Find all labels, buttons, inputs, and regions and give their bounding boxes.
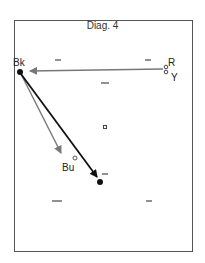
arrow-bk-to-bu — [21, 74, 61, 153]
label-y: Y — [171, 73, 178, 83]
target-point-icon — [97, 179, 103, 185]
bk-point-icon — [17, 69, 23, 75]
diagram-canvas — [0, 0, 205, 263]
arrow-bk-to-target — [21, 74, 97, 177]
label-bu: Bu — [62, 163, 74, 173]
arrow-r-to-bk — [30, 69, 163, 71]
center-square-icon — [104, 126, 107, 129]
label-bk: Bk — [13, 58, 25, 68]
bu-point-icon — [73, 156, 77, 160]
y-point-icon — [164, 70, 168, 74]
label-r: R — [168, 58, 175, 68]
